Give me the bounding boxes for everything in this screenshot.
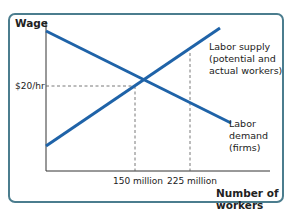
supply-label-line3: actual workers) (209, 65, 282, 77)
x-tick-label-150: 150 million (113, 175, 163, 187)
x-axis-label-line2: workers (216, 199, 263, 212)
supply-label-line2: (potential and (209, 53, 276, 65)
labor-supply-line (46, 28, 220, 146)
supply-label-line1: Labor supply (209, 41, 270, 53)
x-tick-label-225: 225 million (167, 175, 217, 187)
demand-label-line3: (firms) (229, 142, 260, 154)
y-axis-label: Wage (15, 17, 48, 30)
demand-label-line2: demand (229, 130, 268, 142)
labor-demand-line (46, 31, 231, 123)
demand-label-line1: Labor (229, 118, 256, 130)
y-tick-label: $20/hr (15, 80, 45, 92)
